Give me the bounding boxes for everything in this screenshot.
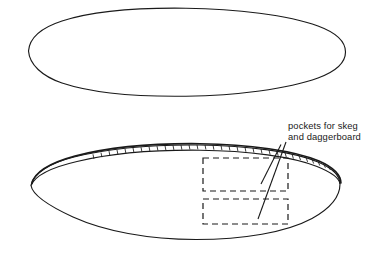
plan-view-hull-outline [29, 8, 346, 96]
drawing-canvas: pockets for skeg and daggerboard [0, 0, 367, 261]
plan-view-group [29, 8, 346, 96]
profile-view-group [31, 142, 341, 240]
pockets-label-line-1: pockets for skeg [288, 120, 358, 131]
pockets-label-line-2: and daggerboard [288, 131, 361, 142]
